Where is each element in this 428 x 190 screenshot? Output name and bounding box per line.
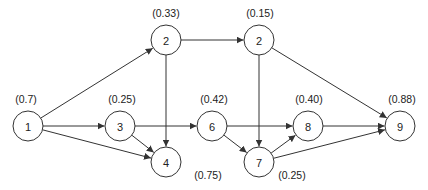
- edge-n6-to-n7: [224, 135, 247, 153]
- node-n2a: 2(0.33): [151, 7, 181, 55]
- probability-label: (0.7): [15, 93, 37, 105]
- edge-n7-to-n9: [274, 130, 386, 159]
- edge-n7-to-n8: [271, 135, 295, 153]
- edge-n3-to-n4: [132, 135, 154, 152]
- network-diagram: 1(0.7)2(0.33)3(0.25)2(0.15)6(0.42)8(0.40…: [0, 0, 428, 190]
- probability-label: (0.25): [278, 169, 305, 181]
- node-label: 1: [25, 121, 31, 133]
- probability-label: (0.25): [108, 93, 135, 105]
- node-n1: 1(0.7): [13, 93, 43, 141]
- node-label: 3: [117, 121, 123, 133]
- probability-label: (0.42): [200, 93, 227, 105]
- node-label: 9: [397, 121, 403, 133]
- node-label: 6: [209, 121, 215, 133]
- node-label: 8: [305, 121, 311, 133]
- node-n3: 3(0.25): [105, 93, 136, 141]
- node-n9: 9(0.88): [385, 93, 416, 141]
- probability-label: (0.40): [295, 93, 322, 105]
- node-n8: 8(0.40): [293, 93, 323, 141]
- node-label: 2: [163, 35, 169, 47]
- node-label: 4: [163, 157, 169, 169]
- node-n4: 4(0.75): [151, 147, 222, 181]
- probability-label: (0.75): [194, 169, 221, 181]
- nodes-layer: 1(0.7)2(0.33)3(0.25)2(0.15)6(0.42)8(0.40…: [13, 7, 416, 181]
- edge-n1-to-n2a: [41, 48, 153, 118]
- node-label: 2: [256, 35, 262, 47]
- node-label: 7: [256, 157, 262, 169]
- node-n6: 6(0.42): [197, 93, 228, 141]
- node-n2b: 2(0.15): [244, 7, 274, 55]
- edge-n2b-to-n9: [272, 48, 387, 118]
- edge-n1-to-n4: [43, 130, 152, 158]
- probability-label: (0.88): [388, 93, 415, 105]
- probability-label: (0.33): [152, 7, 179, 19]
- probability-label: (0.15): [246, 7, 273, 19]
